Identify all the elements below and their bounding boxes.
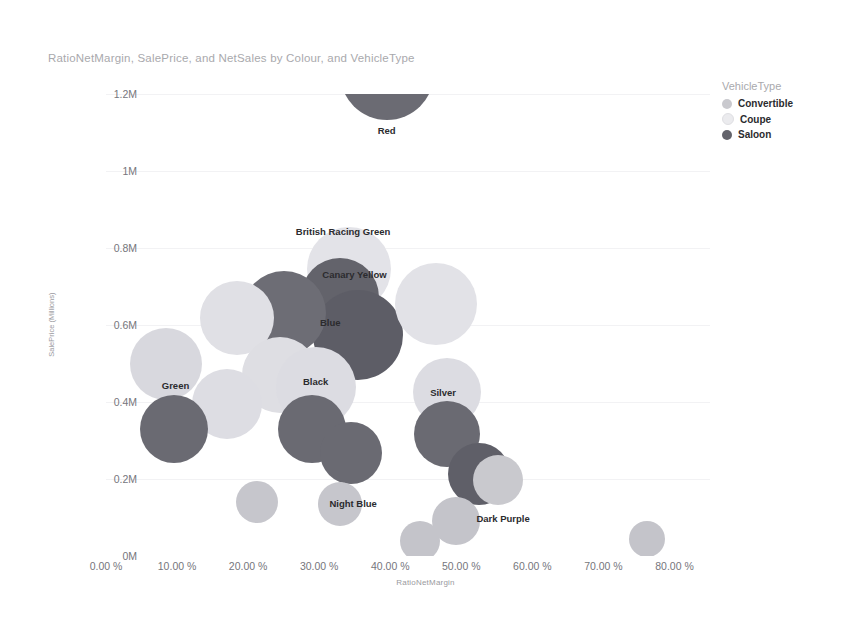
bubble-red[interactable] xyxy=(340,94,434,120)
bubble-convertible-h[interactable] xyxy=(629,521,665,556)
legend-swatch-icon xyxy=(722,99,732,109)
plot-area[interactable]: RedBritish Racing GreenCanary YellowBlue… xyxy=(106,94,710,556)
y-axis-title: SalePrice (Millions) xyxy=(47,290,56,360)
legend-item-coupe[interactable]: Coupe xyxy=(722,113,842,125)
legend-items[interactable]: ConvertibleCoupeSaloon xyxy=(722,98,842,140)
legend-label: Saloon xyxy=(738,129,771,140)
bubble-green[interactable] xyxy=(140,395,208,463)
x-tick-label: 20.00 % xyxy=(229,560,268,572)
y-tick-label: 0.8M xyxy=(77,242,137,254)
bubble-layer[interactable]: RedBritish Racing GreenCanary YellowBlue… xyxy=(106,94,710,556)
legend-swatch-icon xyxy=(722,130,732,140)
y-tick-label: 1.2M xyxy=(77,88,137,100)
x-tick-label: 30.00 % xyxy=(300,560,339,572)
legend-item-saloon[interactable]: Saloon xyxy=(722,129,842,140)
bubble-coupe-b[interactable] xyxy=(395,263,477,345)
x-tick-label: 0.00 % xyxy=(90,560,123,572)
bubble-night-blue[interactable] xyxy=(320,422,382,484)
x-tick-label: 40.00 % xyxy=(371,560,410,572)
bubble-convertible-a[interactable] xyxy=(130,328,202,400)
x-tick-label: 50.00 % xyxy=(442,560,481,572)
legend-label: Coupe xyxy=(740,114,771,125)
x-tick-label: 70.00 % xyxy=(584,560,623,572)
bubble-convertible-c[interactable] xyxy=(473,455,523,505)
y-tick-label: 0.6M xyxy=(77,319,137,331)
bubble-convertible-d[interactable] xyxy=(236,481,278,523)
x-tick-label: 60.00 % xyxy=(513,560,552,572)
legend-item-convertible[interactable]: Convertible xyxy=(722,98,842,109)
x-tick-label: 80.00 % xyxy=(655,560,694,572)
bubble-convertible-e[interactable] xyxy=(318,482,362,526)
legend-label: Convertible xyxy=(738,98,793,109)
x-tick-label: 10.00 % xyxy=(158,560,197,572)
y-tick-label: 0.2M xyxy=(77,473,137,485)
bubble-label-red: Red xyxy=(378,124,396,135)
bubble-label-dark-purple: Dark Purple xyxy=(476,513,529,524)
legend: VehicleType ConvertibleCoupeSaloon xyxy=(722,80,842,144)
y-tick-label: 0.4M xyxy=(77,396,137,408)
bubble-chart-root: RatioNetMargin, SalePrice, and NetSales … xyxy=(0,0,851,642)
y-tick-label: 1M xyxy=(77,165,137,177)
legend-title: VehicleType xyxy=(722,80,842,92)
x-axis-title: RatioNetMargin xyxy=(0,578,851,587)
legend-swatch-icon xyxy=(722,113,734,125)
bubble-convertible-g[interactable] xyxy=(400,521,440,556)
page-title: RatioNetMargin, SalePrice, and NetSales … xyxy=(48,52,415,64)
